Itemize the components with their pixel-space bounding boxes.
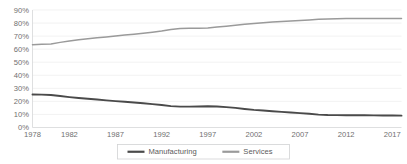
y-tick-label: 50% [14, 58, 29, 67]
chart-canvas: 90%80%70%60%50%40%30%20%10%0% 1978198219… [0, 0, 407, 164]
y-tick-label: 70% [14, 32, 29, 41]
series-line-services [33, 18, 402, 44]
series-line-manufacturing [33, 94, 402, 115]
legend-label-manufacturing: Manufacturing [149, 147, 197, 156]
x-tick-label: 1992 [153, 130, 170, 139]
x-tick-label: 1997 [199, 130, 216, 139]
y-tick-label: 20% [14, 97, 29, 106]
x-tick-label: 2002 [245, 130, 262, 139]
x-tick-label: 1987 [107, 130, 124, 139]
line-chart: 90%80%70%60%50%40%30%20%10%0% 1978198219… [0, 0, 407, 164]
x-tick-label: 2017 [384, 130, 401, 139]
y-tick-label: 10% [14, 110, 29, 119]
y-tick-label: 80% [14, 19, 29, 28]
y-tick-label: 30% [14, 84, 29, 93]
legend-label-services: Services [243, 147, 272, 156]
x-tick-label: 2012 [338, 130, 355, 139]
chart-legend: ManufacturingServices [118, 145, 290, 160]
x-tick-label: 1982 [61, 130, 78, 139]
x-axis-tick-labels: 197819821987199219972002200720122017 [24, 130, 401, 139]
x-tick-label: 1978 [24, 130, 41, 139]
y-tick-label: 90% [14, 6, 29, 15]
x-tick-label: 2007 [292, 130, 309, 139]
y-axis-tick-labels: 90%80%70%60%50%40%30%20%10%0% [14, 6, 29, 133]
y-tick-label: 40% [14, 71, 29, 80]
y-tick-label: 60% [14, 45, 29, 54]
